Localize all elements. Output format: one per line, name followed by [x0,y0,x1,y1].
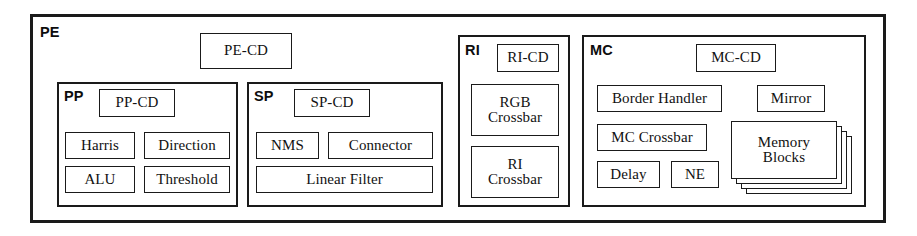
pp-cd-box: PP-CD [99,89,175,117]
sp-unit-nms: NMS [256,132,319,159]
figure-canvas: PE PE-CD PP PP-CD Harris Direction ALU T… [0,0,917,236]
pp-unit-alu-label: ALU [82,172,117,187]
pp-unit-threshold-label: Threshold [154,172,220,187]
pe-label: PE [40,25,60,40]
mc-label: MC [590,43,613,58]
pp-unit-harris: Harris [65,132,135,159]
mc-unit-mirror-label: Mirror [769,91,814,106]
pp-label: PP [64,89,84,104]
mc-unit-ne: NE [671,161,719,188]
mc-unit-mc-crossbar: MC Crossbar [597,124,707,151]
sp-cd-label: SP-CD [308,95,355,110]
sp-unit-nms-label: NMS [269,138,306,153]
pe-cd-label: PE-CD [222,43,270,58]
ri-cd-box: RI-CD [497,44,559,72]
pp-unit-threshold: Threshold [144,166,230,193]
mc-unit-delay: Delay [597,161,660,188]
sp-cd-box: SP-CD [294,89,370,117]
mc-unit-ne-label: NE [683,167,707,182]
pp-unit-alu: ALU [65,166,135,193]
mc-memory-blocks-label: Memory Blocks [756,135,812,166]
ri-cd-label: RI-CD [505,50,550,65]
mc-unit-mirror: Mirror [757,85,825,112]
sp-unit-connector: Connector [328,132,433,159]
pp-cd-label: PP-CD [113,95,160,110]
mc-unit-mc-crossbar-label: MC Crossbar [609,130,695,145]
mc-memory-blocks-stack: Memory Blocks [731,121,855,199]
mc-cd-label: MC-CD [709,50,763,65]
pp-unit-direction-label: Direction [156,138,218,153]
pp-unit-direction: Direction [144,132,230,159]
mc-unit-border-handler: Border Handler [597,85,722,112]
pe-cd-box: PE-CD [200,33,292,69]
pp-unit-harris-label: Harris [79,138,121,153]
sp-label: SP [254,89,274,104]
sp-unit-linear-filter: Linear Filter [256,166,433,193]
mc-cd-box: MC-CD [696,44,776,72]
sp-unit-connector-label: Connector [347,138,414,153]
ri-unit-rgb-crossbar-label: RGB Crossbar [486,95,544,126]
memory-block-card-front: Memory Blocks [731,121,837,179]
mc-unit-border-handler-label: Border Handler [610,91,709,106]
mc-unit-delay-label: Delay [608,167,648,182]
ri-unit-ri-crossbar: RI Crossbar [471,146,559,198]
ri-unit-rgb-crossbar: RGB Crossbar [471,84,559,136]
ri-label: RI [465,43,480,58]
sp-unit-linear-filter-label: Linear Filter [304,172,385,187]
ri-unit-ri-crossbar-label: RI Crossbar [486,157,544,188]
